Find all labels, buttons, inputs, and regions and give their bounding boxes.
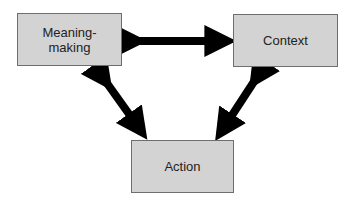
node-action-label: Action xyxy=(164,159,200,174)
node-context: Context xyxy=(233,14,338,67)
node-action: Action xyxy=(131,140,234,193)
node-context-label: Context xyxy=(263,33,308,48)
arrow-meaning-action xyxy=(104,79,139,128)
arrow-context-action xyxy=(223,77,257,129)
node-meaning-making: Meaning- making xyxy=(17,13,122,66)
node-meaning-making-label-1: Meaning- xyxy=(42,25,96,40)
node-meaning-making-label-2: making xyxy=(42,40,96,55)
